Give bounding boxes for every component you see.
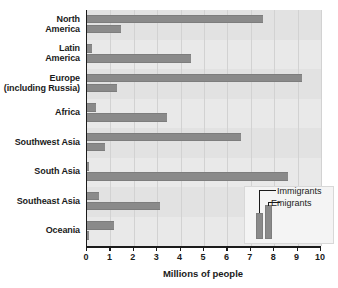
bar-immigrants-4 [87,133,241,142]
gridline [157,10,158,246]
category-label-line: America [0,24,80,34]
bar-immigrants-3 [87,103,96,112]
x-axis-title: Millions of people [86,268,320,279]
gridline [110,10,111,246]
category-label-0: NorthAmerica [0,14,80,34]
category-label-line: South Asia [0,166,80,176]
x-tick-label-7: 7 [240,252,260,262]
x-tick-label-3: 3 [146,252,166,262]
category-label-line: (including Russia) [0,83,80,93]
x-tick-label-1: 1 [99,252,119,262]
bar-emigrants-0 [87,25,121,34]
bar-immigrants-7 [87,221,114,230]
bar-emigrants-4 [87,143,105,152]
category-label-line: Europe [0,73,80,83]
legend-label-immigrants: Immigrants [277,186,322,196]
legend-swatch-emigrants [265,205,272,239]
x-tick-5 [203,246,204,251]
bar-emigrants-2 [87,84,117,93]
x-tick-1 [109,246,110,251]
x-tick-6 [226,246,227,251]
category-label-line: Africa [0,107,80,117]
category-axis-labels: NorthAmericaLatinAmericaEurope(including… [0,10,84,246]
x-tick-2 [133,246,134,251]
migration-bar-chart: NorthAmericaLatinAmericaEurope(including… [0,0,338,288]
category-label-line: Southeast Asia [0,196,80,206]
category-label-line: America [0,53,80,63]
x-tick-label-9: 9 [287,252,307,262]
x-tick-label-10: 10 [310,252,330,262]
category-label-7: Oceania [0,225,80,235]
category-label-2: Europe(including Russia) [0,73,80,93]
legend-leader-immigrants [259,190,260,213]
x-tick-4 [180,246,181,251]
category-label-4: Southwest Asia [0,137,80,147]
bar-emigrants-6 [87,202,160,211]
gridline [227,10,228,246]
category-label-5: South Asia [0,166,80,176]
x-tick-10 [320,246,321,251]
x-tick-7 [250,246,251,251]
gridline [181,10,182,246]
x-tick-8 [273,246,274,251]
category-label-1: LatinAmerica [0,43,80,63]
bar-emigrants-1 [87,54,191,63]
bar-immigrants-6 [87,192,99,201]
x-tick-0 [86,246,87,251]
category-label-line: North [0,14,80,24]
bar-immigrants-2 [87,74,302,83]
x-tick-label-2: 2 [123,252,143,262]
bar-emigrants-3 [87,113,167,122]
bar-emigrants-7 [87,231,89,240]
chart-legend: Immigrants Emigrants [244,186,334,244]
x-tick-label-6: 6 [216,252,236,262]
category-label-6: Southeast Asia [0,196,80,206]
legend-leader-immigrants-horizontal [259,190,276,191]
category-label-line: Latin [0,43,80,53]
gridline [204,10,205,246]
bar-immigrants-5 [87,162,89,171]
category-label-line: Oceania [0,225,80,235]
bar-immigrants-1 [87,44,92,53]
x-tick-label-4: 4 [170,252,190,262]
legend-swatch-immigrants [256,213,263,239]
legend-label-emigrants: Emigrants [271,198,312,208]
category-label-line: Southwest Asia [0,137,80,147]
bar-emigrants-5 [87,172,288,181]
x-tick-label-0: 0 [76,252,96,262]
category-label-3: Africa [0,107,80,117]
x-tick-3 [156,246,157,251]
x-tick-label-5: 5 [193,252,213,262]
x-tick-9 [297,246,298,251]
x-tick-label-8: 8 [263,252,283,262]
gridline [134,10,135,246]
bar-immigrants-0 [87,15,263,24]
